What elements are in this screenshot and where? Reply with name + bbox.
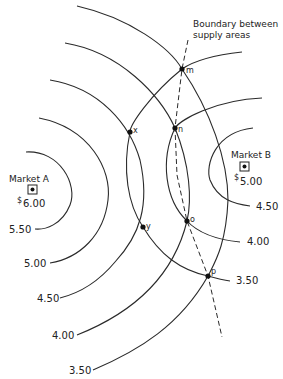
contour-a-label-5-00: 5.00 xyxy=(24,258,46,269)
contour-a-4-50 xyxy=(50,80,144,298)
label-p: p xyxy=(211,267,216,276)
contour-b-label-3-50: 3.50 xyxy=(236,275,258,286)
label-y: y xyxy=(146,222,151,231)
boundary-label-line1: Boundary between xyxy=(193,19,278,29)
market-b-dollar: $ xyxy=(234,173,239,182)
contour-a-label-5-50: 5.50 xyxy=(9,224,31,235)
label-m: m xyxy=(186,66,194,75)
contour-b-label-4-50: 4.50 xyxy=(256,201,278,212)
contour-a-label-3-50: 3.50 xyxy=(69,365,91,376)
market-a-price: 6.00 xyxy=(23,198,45,209)
market-b-price: 5.00 xyxy=(240,176,262,187)
market-b-dot xyxy=(243,165,247,169)
point-x xyxy=(127,129,132,134)
point-o xyxy=(184,218,189,223)
label-n: n xyxy=(178,125,183,134)
contour-b-4-00 xyxy=(166,98,262,242)
label-x: x xyxy=(133,126,138,135)
label-o: o xyxy=(190,215,195,224)
contour-a-5-00 xyxy=(39,118,108,263)
market-b-label: Market B xyxy=(231,150,271,160)
market-a-dollar: $ xyxy=(17,196,22,205)
point-m xyxy=(179,66,184,71)
contour-a-3-50 xyxy=(77,6,228,370)
market-a-dot xyxy=(31,188,35,192)
contour-a-label-4-50: 4.50 xyxy=(37,293,59,304)
contour-a-label-4-00: 4.00 xyxy=(52,330,74,341)
contour-b-label-4-00: 4.00 xyxy=(247,236,269,247)
point-n xyxy=(172,125,177,130)
point-p xyxy=(205,273,210,278)
boundary-label-line2: supply areas xyxy=(193,30,251,40)
point-y xyxy=(140,224,145,229)
market-a-label: Market A xyxy=(9,174,50,184)
supply-area-diagram: m n x o y p Boundary between supply area… xyxy=(0,0,283,379)
contour-a-4-00 xyxy=(65,43,189,335)
